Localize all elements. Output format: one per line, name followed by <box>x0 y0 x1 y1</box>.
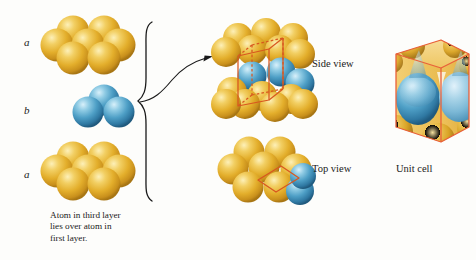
transition-arrow <box>140 55 213 102</box>
unit-cell-figure <box>379 33 476 157</box>
unit-cell-label: Unit cell <box>396 163 432 174</box>
curly-brace <box>138 22 152 201</box>
layer-a-top-cluster <box>41 16 136 75</box>
top-view-cluster <box>218 137 317 206</box>
caption-line-1: Atom in third layer <box>50 210 180 221</box>
top-view-label: Top view <box>312 163 351 174</box>
layer-b-middle-cluster <box>73 85 135 128</box>
caption-line-3: first layer. <box>50 233 180 244</box>
layer-a-bottom-cluster <box>41 142 136 201</box>
side-view-cluster <box>211 18 318 122</box>
stack-caption: Atom in third layer lies over atom in fi… <box>50 210 180 244</box>
side-view-label: Side view <box>312 58 354 69</box>
caption-line-2: lies over atom in <box>50 221 180 232</box>
figure-canvas: a b a <box>0 0 476 260</box>
